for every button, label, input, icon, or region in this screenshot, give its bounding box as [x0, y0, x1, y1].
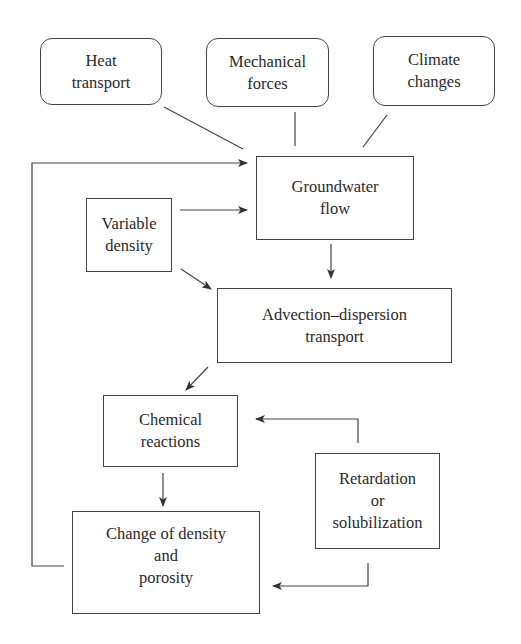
node-label: Chemical [139, 409, 202, 431]
node-label: Change of density [106, 523, 226, 545]
node-chemical-reactions: Chemical reactions [103, 395, 238, 467]
node-label: porosity [139, 567, 193, 589]
node-label: or [371, 490, 385, 512]
edge-climate-to-groundwater [363, 115, 387, 147]
node-label: Advection–dispersion [262, 304, 407, 326]
node-change-density-porosity: Change of density and porosity [72, 511, 260, 614]
edge-retardation-to-chemical [256, 419, 358, 443]
node-retardation-solubilization: Retardation or solubilization [315, 453, 440, 549]
node-label: Variable [102, 213, 157, 235]
node-label: solubilization [333, 512, 423, 534]
node-heat-transport: Heat transport [40, 38, 162, 105]
node-label: reactions [141, 431, 201, 453]
node-label: Heat [85, 50, 116, 72]
edge-heat-to-groundwater [164, 107, 243, 149]
node-label: forces [247, 73, 287, 95]
edge-retardation-to-change [273, 563, 368, 586]
node-climate-changes: Climate changes [373, 36, 495, 106]
node-label: transport [72, 72, 131, 94]
node-label: Groundwater [291, 176, 378, 198]
edge-variable-to-advection [181, 269, 211, 289]
edge-advection-to-chemical [186, 367, 208, 390]
node-label: transport [305, 326, 364, 348]
node-variable-density: Variable density [86, 198, 172, 272]
node-label: Retardation [339, 468, 416, 490]
node-mechanical-forces: Mechanical forces [206, 38, 329, 107]
node-groundwater-flow: Groundwater flow [256, 156, 414, 240]
node-label: flow [320, 198, 350, 220]
node-label: and [154, 545, 178, 567]
node-label: changes [407, 71, 460, 93]
node-advection-dispersion: Advection–dispersion transport [217, 288, 452, 363]
node-label: Mechanical [229, 51, 306, 73]
node-label: density [105, 235, 153, 257]
node-label: Climate [408, 49, 460, 71]
